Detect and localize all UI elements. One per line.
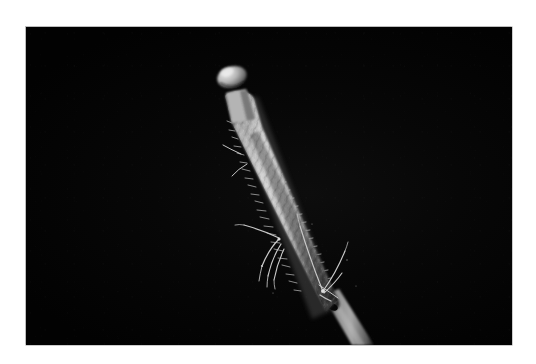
screenshot-root	[0, 0, 536, 364]
photograph-frame	[26, 27, 512, 345]
macro-photograph-subject	[26, 27, 512, 345]
left-antenna	[244, 225, 279, 238]
neck	[226, 89, 256, 123]
bulb-cap	[215, 63, 250, 91]
